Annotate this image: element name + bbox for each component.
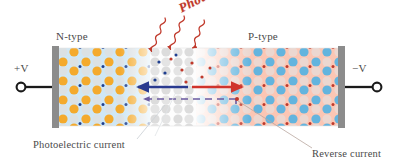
right-circuit-lead bbox=[345, 83, 381, 92]
photon-ray-2 bbox=[169, 15, 185, 50]
photodiode-diagram: N-type P-type +V −V Photons Photoelectri… bbox=[0, 0, 399, 167]
positive-voltage-label: +V bbox=[14, 62, 29, 74]
left-circuit-lead bbox=[17, 83, 52, 92]
right-electrode bbox=[338, 46, 345, 128]
photon-ray-1 bbox=[150, 17, 166, 52]
left-electrode bbox=[52, 46, 59, 128]
photon-rays bbox=[150, 15, 205, 52]
right-terminal-node bbox=[373, 83, 382, 92]
negative-voltage-label: −V bbox=[352, 62, 367, 74]
photon-ray-3 bbox=[191, 19, 205, 48]
reverse-current-label: Reverse current bbox=[312, 148, 381, 159]
left-terminal-node bbox=[17, 83, 26, 92]
photoelectric-current-label: Photoelectric current bbox=[33, 139, 125, 150]
n-type-label: N-type bbox=[56, 30, 88, 42]
p-type-label: P-type bbox=[248, 30, 278, 42]
